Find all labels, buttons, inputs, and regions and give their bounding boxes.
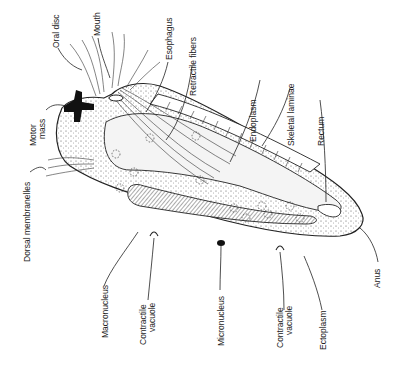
label-rectum: Rectum: [316, 117, 326, 146]
label-esophagus: Esophagus: [164, 17, 174, 60]
micronucleus: [217, 240, 225, 246]
mouth-opening: [109, 95, 123, 101]
label-contractile-vacuole-b-line2: vacuole: [284, 305, 294, 335]
label-ectoplasm: Ectoplasm: [318, 310, 328, 350]
contractile-vacuole-a: [150, 232, 158, 236]
contractile-vacuole-b: [276, 246, 284, 250]
label-skeletal-laminae: Skeletal laminae: [286, 83, 296, 146]
label-contractile-vacuole-a-line2: vacuole: [147, 302, 157, 332]
label-micronucleus: Micronucleus: [216, 296, 226, 346]
label-mouth: Mouth: [92, 12, 102, 36]
label-dorsal-membranelles: Dorsal membranelles: [22, 182, 32, 262]
label-motor-mass-line2: mass: [37, 119, 47, 139]
ciliate-diagram: Oral disc Mouth Esophagus Retractile fib…: [0, 0, 394, 371]
label-anus: Anus: [372, 269, 382, 288]
label-retractile-fibers: Retractile fibers: [188, 37, 198, 96]
label-oral-disc: Oral disc: [51, 14, 61, 48]
label-endoplasm: Endoplasm: [248, 99, 258, 142]
label-macronucleus: Macronucleus: [100, 285, 110, 338]
